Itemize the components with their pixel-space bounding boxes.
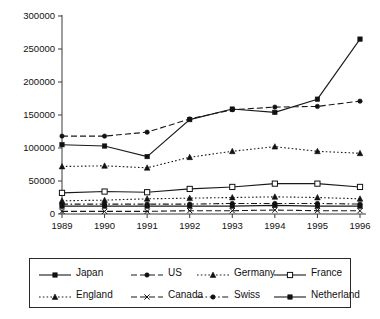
data-point-marker (272, 181, 277, 186)
legend-line-sample (196, 291, 230, 303)
y-axis: 050000100000150000200000250000300000 (23, 10, 62, 219)
data-point-marker (288, 295, 292, 299)
legend-line-sample (273, 291, 307, 303)
data-point-marker (60, 204, 64, 208)
data-point-marker (102, 163, 108, 168)
data-point-marker (315, 204, 319, 208)
data-point-marker (188, 117, 192, 121)
data-point-marker (273, 203, 277, 207)
x-axis-tick-label: 1992 (179, 220, 200, 231)
data-point-marker (358, 37, 362, 41)
data-point-marker (272, 194, 278, 199)
data-point-marker (187, 154, 193, 159)
data-point-marker (358, 99, 362, 103)
data-point-marker (357, 184, 362, 189)
legend-line-sample (38, 269, 72, 281)
legend-item-label: England (76, 289, 113, 301)
data-point-marker (60, 143, 64, 147)
data-point-marker (102, 189, 107, 194)
legend-item-label: Japan (76, 267, 103, 279)
series-line (62, 147, 360, 168)
data-point-marker (357, 208, 362, 213)
series-netherland (60, 203, 362, 208)
data-point-marker (357, 150, 363, 155)
y-axis-tick-label: 250000 (23, 43, 55, 54)
data-point-marker (358, 204, 362, 208)
legend-row: EnglandCanadaSwissNetherland (30, 284, 350, 306)
legend-item-label: Germany (234, 267, 275, 279)
legend-swatch-icon (38, 267, 72, 279)
data-point-marker (145, 204, 149, 208)
y-axis-tick-label: 50000 (29, 175, 55, 186)
data-point-marker (273, 105, 277, 109)
data-point-marker (315, 181, 320, 186)
legend-item-netherland[interactable]: Netherland (273, 289, 360, 301)
data-point-marker (273, 110, 277, 114)
data-point-marker (357, 196, 363, 201)
data-point-marker (53, 273, 57, 277)
data-point-marker (145, 190, 150, 195)
data-point-marker (315, 195, 321, 200)
data-point-marker (315, 104, 319, 108)
x-axis-tick-label: 1991 (137, 220, 158, 231)
legend-line-sample (196, 269, 230, 281)
data-point-marker (230, 204, 234, 208)
data-point-marker (187, 186, 192, 191)
legend-swatch-icon (273, 267, 307, 279)
data-point-marker (52, 294, 58, 299)
data-point-marker (211, 295, 215, 299)
chart-page: 050000100000150000200000250000300000 198… (0, 0, 380, 319)
data-point-marker (210, 272, 216, 277)
line-chart: 050000100000150000200000250000300000 198… (0, 0, 380, 252)
chart-legend: JapanUSGermanyFrance EnglandCanadaSwissN… (29, 258, 351, 308)
data-point-marker (60, 134, 64, 138)
legend-line-sample (130, 269, 164, 281)
legend-item-label: Swiss (234, 289, 260, 301)
data-point-marker (145, 273, 149, 277)
y-axis-tick-label: 150000 (23, 109, 55, 120)
legend-item-japan[interactable]: Japan (38, 267, 103, 279)
x-axis: 19891990199119921993199419951996 (51, 214, 370, 231)
legend-item-label: US (168, 267, 182, 279)
data-point-marker (188, 204, 192, 208)
data-point-marker (102, 144, 106, 148)
legend-item-germany[interactable]: Germany (196, 267, 275, 279)
data-point-marker (145, 154, 149, 158)
data-point-marker (229, 148, 235, 153)
chart-svg: 050000100000150000200000250000300000 198… (0, 0, 380, 252)
data-point-marker (102, 134, 106, 138)
y-axis-tick-label: 100000 (23, 142, 55, 153)
x-axis-tick-label: 1994 (264, 220, 285, 231)
x-axis-tick-label: 1996 (349, 220, 370, 231)
legend-item-swiss[interactable]: Swiss (196, 289, 260, 301)
legend-item-us[interactable]: US (130, 267, 182, 279)
legend-line-sample (130, 291, 164, 303)
x-axis-tick-label: 1995 (307, 220, 328, 231)
y-axis-tick-label: 300000 (23, 10, 55, 21)
legend-item-label: Netherland (311, 289, 360, 301)
series-japan (60, 37, 362, 159)
legend-line-sample (273, 269, 307, 281)
y-axis-tick-label: 0 (50, 208, 55, 219)
legend-item-canada[interactable]: Canada (130, 289, 203, 301)
legend-swatch-icon (130, 289, 164, 301)
data-point-marker (59, 163, 65, 168)
y-axis-tick-label: 200000 (23, 76, 55, 87)
legend-item-label: France (311, 267, 342, 279)
data-point-marker (102, 204, 106, 208)
legend-swatch-icon (130, 267, 164, 279)
data-point-marker (144, 165, 150, 170)
legend-swatch-icon (196, 267, 230, 279)
legend-item-england[interactable]: England (38, 289, 113, 301)
legend-item-france[interactable]: France (273, 267, 342, 279)
data-point-marker (315, 97, 319, 101)
series-us (60, 99, 362, 138)
data-point-marker (59, 190, 64, 195)
legend-line-sample (38, 291, 72, 303)
legend-row: JapanUSGermanyFrance (30, 262, 350, 284)
legend-swatch-icon (196, 289, 230, 301)
data-point-marker (230, 108, 234, 112)
legend-swatch-icon (38, 289, 72, 301)
x-axis-tick-label: 1989 (51, 220, 72, 231)
series-layer (59, 37, 363, 214)
